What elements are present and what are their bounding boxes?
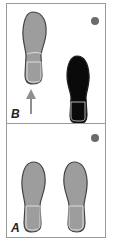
left-footprint-icon bbox=[23, 12, 46, 84]
panel-label-b: B bbox=[11, 107, 20, 121]
panel-a: A bbox=[6, 123, 106, 238]
dot-marker-icon bbox=[91, 134, 99, 142]
panel-b-drawing bbox=[7, 4, 107, 125]
panel-label-a: A bbox=[11, 221, 20, 235]
right-footprint-icon bbox=[64, 162, 87, 232]
arrow-up-icon bbox=[26, 89, 36, 114]
panel-a-drawing bbox=[7, 124, 107, 239]
right-footprint-icon bbox=[67, 56, 89, 124]
left-footprint-icon bbox=[22, 162, 45, 232]
panel-b: B bbox=[6, 3, 106, 124]
dot-marker-icon bbox=[91, 17, 99, 25]
